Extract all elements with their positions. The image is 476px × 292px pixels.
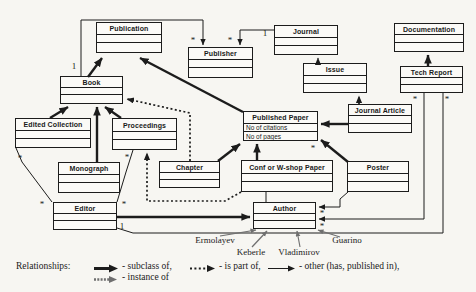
- subclass-arrow-icon: [93, 264, 119, 273]
- class-node-journal: Journal: [274, 25, 338, 55]
- journal-publisher-association: [240, 30, 274, 45]
- multiplicity-label-10: *: [40, 200, 45, 209]
- legend-subclass-label: - subclass of,: [122, 261, 172, 271]
- class-attr-publication-1: [97, 35, 161, 43]
- book-subclass-of-publication: [88, 58, 102, 77]
- class-attr-proceedings-2: [113, 140, 176, 149]
- class-attr-conf-paper-1: [242, 174, 332, 182]
- class-attr-journal-1: [275, 38, 337, 46]
- multiplicity-label-7: *: [311, 144, 316, 153]
- chapter-subclass-of-published-paper: [218, 144, 240, 161]
- legend-other-label: - other (has, published in),: [299, 261, 399, 271]
- class-attr-book-1: [61, 88, 122, 95]
- keberle-instance-of-author: [252, 231, 267, 247]
- class-title-editor: Editor: [54, 203, 116, 214]
- poster-subclass-of-published-paper: [321, 140, 348, 162]
- class-attr-proceedings-1: [113, 132, 176, 140]
- class-attr-journal-article-2: [349, 124, 411, 132]
- class-title-edited-collection: Edited Collection: [16, 119, 90, 131]
- class-attr-journal-2: [275, 46, 337, 54]
- multiplicity-label-2: *: [191, 36, 196, 45]
- multiplicity-label-12: *: [320, 209, 325, 218]
- other-arrow-icon: [267, 264, 297, 273]
- is-part-of-arrow-icon: [189, 264, 217, 273]
- class-attr-publication-2: [97, 43, 161, 52]
- class-node-journal-article: Journal Article: [348, 104, 412, 133]
- instance-of-arrow-icon: [93, 275, 119, 284]
- multiplicity-label-13: *: [320, 222, 325, 231]
- class-title-monograph: Monograph: [59, 163, 119, 175]
- uml-class-diagram: PublicationPublisherJournalDocumentation…: [0, 0, 476, 292]
- class-title-documentation: Documentation: [395, 24, 463, 35]
- class-attr-monograph-1: [59, 175, 119, 183]
- class-node-poster: Poster: [347, 161, 409, 192]
- class-node-issue: Issue: [303, 63, 367, 93]
- class-attr-tech-report-2: [401, 85, 462, 92]
- class-attr-edited-collection-2: [16, 139, 90, 147]
- instance-label-vladimirov: Vladimirov: [278, 247, 320, 257]
- class-attr-publisher-2: [189, 68, 252, 77]
- multiplicity-label-9: *: [125, 153, 130, 162]
- legend-is-part-of-label: - is part of,: [219, 261, 261, 271]
- class-node-proceedings: Proceedings: [112, 118, 177, 150]
- proceedings-subclass-of-book: [105, 107, 121, 118]
- multiplicity-label-3: *: [228, 36, 233, 45]
- class-attr-published-paper-2: No of pages: [244, 132, 317, 140]
- edited-collection-subclass-of-book: [50, 107, 68, 118]
- instance-label-ermolayev: Ermolayev: [195, 235, 235, 245]
- class-attr-conf-paper-2: [242, 182, 332, 191]
- class-title-journal-article: Journal Article: [349, 105, 411, 116]
- class-attr-publisher-1: [189, 60, 252, 68]
- multiplicity-label-4: 1: [263, 29, 268, 38]
- class-node-author: Author: [253, 202, 316, 229]
- multiplicity-label-11: *: [122, 200, 127, 209]
- class-title-issue: Issue: [304, 64, 366, 76]
- class-attr-tech-report-1: [401, 78, 462, 85]
- class-attr-documentation-2: [395, 43, 463, 51]
- class-title-poster: Poster: [348, 162, 408, 174]
- multiplicity-label-14: 1: [120, 222, 125, 231]
- class-title-author: Author: [254, 203, 315, 214]
- class-attr-edited-collection-1: [16, 131, 90, 139]
- class-node-tech-report: Tech Report: [400, 66, 463, 93]
- class-attr-editor-1: [54, 214, 116, 221]
- class-attr-poster-2: [348, 182, 408, 191]
- legend-title: Relationships:: [16, 261, 70, 271]
- class-attr-chapter-2: [160, 180, 219, 187]
- class-attr-author-1: [254, 214, 315, 221]
- legend-instance-of-label: - instance of: [122, 272, 169, 282]
- class-node-book: Book: [60, 76, 123, 104]
- instance-label-guarino: Guarino: [332, 235, 362, 245]
- multiplicity-label-1: 1: [72, 62, 77, 71]
- class-attr-chapter-1: [160, 173, 219, 180]
- class-node-documentation: Documentation: [394, 23, 464, 52]
- class-attr-monograph-2: [59, 183, 119, 192]
- multiplicity-label-8: *: [18, 154, 23, 163]
- class-title-conf-paper: Conf or W-shop Paper: [242, 161, 332, 174]
- multiplicity-label-5: *: [413, 95, 418, 104]
- class-attr-issue-2: [304, 84, 366, 92]
- class-node-publication: Publication: [96, 22, 162, 53]
- class-title-tech-report: Tech Report: [401, 67, 462, 78]
- class-title-journal: Journal: [275, 26, 337, 38]
- class-title-book: Book: [61, 77, 122, 88]
- class-attr-issue-1: [304, 76, 366, 84]
- class-node-published-paper: Published PaperNo of citationsNo of page…: [243, 111, 318, 141]
- poster-author-association: [319, 192, 348, 207]
- class-title-publisher: Publisher: [189, 48, 252, 60]
- class-title-chapter: Chapter: [160, 162, 219, 173]
- class-attr-editor-2: [54, 221, 116, 229]
- class-node-monograph: Monograph: [58, 162, 120, 193]
- class-attr-journal-article-1: [349, 116, 411, 124]
- class-attr-poster-1: [348, 174, 408, 182]
- class-title-published-paper: Published Paper: [244, 112, 317, 124]
- class-node-publisher: Publisher: [188, 47, 253, 78]
- class-attr-author-2: [254, 221, 315, 228]
- class-node-conf-paper: Conf or W-shop Paper: [241, 160, 333, 192]
- class-node-edited-collection: Edited Collection: [15, 118, 91, 148]
- vladimirov-instance-of-author: [297, 231, 300, 247]
- instance-label-keberle: Keberle: [237, 247, 265, 257]
- multiplicity-label-6: *: [445, 95, 450, 104]
- class-title-proceedings: Proceedings: [113, 119, 176, 132]
- class-title-publication: Publication: [97, 23, 161, 35]
